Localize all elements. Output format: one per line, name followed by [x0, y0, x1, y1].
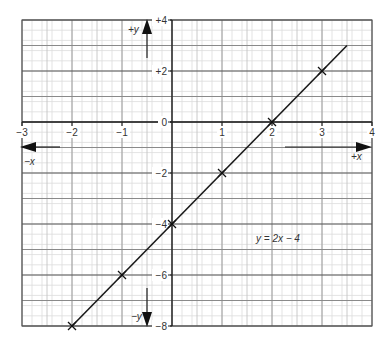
y-positive-arrow-head	[142, 19, 152, 34]
function-line	[72, 46, 347, 327]
y-negative-label: −y	[131, 311, 143, 322]
y-positive-label: +y	[128, 24, 140, 35]
y-tick-label: +2	[156, 66, 168, 77]
x-tick-label: 4	[369, 127, 375, 138]
x-tick-label: 3	[319, 127, 325, 138]
major-grid	[22, 20, 372, 326]
y-tick-label: +4	[156, 15, 168, 26]
y-negative-arrow-head	[142, 312, 152, 327]
x-tick-label: −3	[16, 127, 28, 138]
x-positive-label: +x	[351, 151, 363, 162]
equation-label: y = 2x − 4	[255, 233, 300, 244]
x-tick-label: −1	[116, 127, 128, 138]
x-negative-label: −x	[24, 156, 36, 167]
y-tick-label: −8	[156, 321, 168, 332]
x-tick-label: 2	[269, 127, 275, 138]
y-tick-label: −6	[156, 270, 168, 281]
plotted-line	[72, 46, 347, 327]
y-tick-label: 0	[161, 117, 167, 128]
x-tick-label: 1	[219, 127, 225, 138]
x-tick-label: −2	[66, 127, 78, 138]
y-tick-label: −2	[156, 168, 168, 179]
y-tick-label: −4	[156, 219, 168, 230]
coordinate-graph: −3−2−11234+4+20−2−4−6−8 +x −x +y −y y = …	[0, 0, 386, 343]
